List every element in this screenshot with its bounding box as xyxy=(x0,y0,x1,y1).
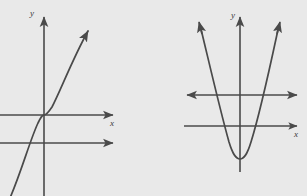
cubic-curve xyxy=(10,31,88,196)
cubic-graph-panel: y x xyxy=(0,8,114,196)
parabola-x-axis-label: x xyxy=(293,129,298,139)
cubic-x-axis-label: x xyxy=(109,118,114,128)
figure-svg: y x y x xyxy=(0,0,307,196)
parabola-graph-panel: y x xyxy=(184,10,298,172)
figure-canvas: y x y x xyxy=(0,0,307,196)
parabola-y-axis-label: y xyxy=(230,10,235,20)
parabola-right-arm-arrow xyxy=(277,22,280,34)
cubic-y-axis-label: y xyxy=(29,8,34,18)
